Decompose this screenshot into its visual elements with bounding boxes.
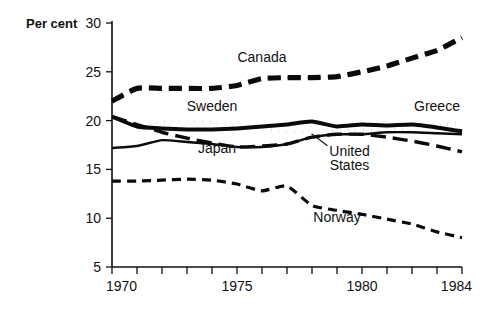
series-annotation-united-states-line2: States — [330, 157, 370, 173]
y-axis-tick-label: 25 — [85, 64, 101, 80]
annotation-layer: CanadaSwedenGreeceJapanUnitedStatesNorwa… — [187, 49, 460, 225]
series-canada — [112, 38, 462, 101]
y-axis-tick-label: 10 — [85, 210, 101, 226]
series-path-japan-0 — [112, 117, 462, 152]
y-axis-tick-label: 20 — [85, 113, 101, 129]
chart-figure: CanadaSwedenGreeceJapanUnitedStatesNorwa… — [0, 0, 489, 318]
series-path-sweden-1 — [112, 117, 462, 132]
series-path-canada-1 — [112, 38, 462, 101]
series-japan — [112, 117, 462, 152]
y-axis-tick-label: 15 — [85, 161, 101, 177]
series-annotation-greece: Greece — [414, 98, 460, 114]
y-axis-title: Per cent — [26, 16, 78, 31]
series-sweden — [112, 117, 462, 132]
series-annotation-japan: Japan — [198, 140, 236, 156]
series-path-canada-0 — [112, 38, 462, 101]
x-axis-tick-label: 1970 — [106, 278, 137, 294]
x-axis-tick-label: 1975 — [221, 278, 252, 294]
y-axis-tick-label: 5 — [93, 259, 101, 275]
series-norway — [112, 179, 462, 238]
series-annotation-canada: Canada — [237, 49, 286, 65]
y-axis-tick-label: 30 — [85, 15, 101, 31]
x-axis-tick-label: 1980 — [346, 278, 377, 294]
series-layer — [112, 38, 462, 238]
series-annotation-norway: Norway — [313, 209, 360, 225]
line-chart-canvas: CanadaSwedenGreeceJapanUnitedStatesNorwa… — [0, 0, 489, 318]
x-axis-tick-label: 1984 — [441, 278, 472, 294]
series-path-norway-0 — [112, 179, 462, 238]
series-annotation-sweden: Sweden — [187, 98, 238, 114]
